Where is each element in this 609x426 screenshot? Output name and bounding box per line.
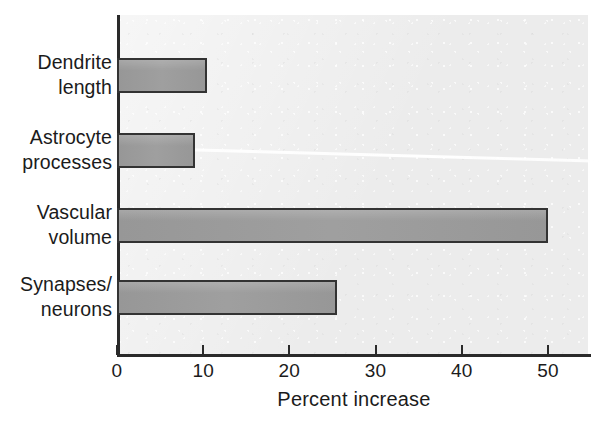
x-tick-label-40: 40 <box>451 359 473 383</box>
x-tick-10 <box>202 345 204 355</box>
bar-chart-figure: Dendrite length Astrocyte processes Vasc… <box>0 0 609 426</box>
bar-dendrite-length <box>117 58 207 93</box>
x-tick-40 <box>461 345 463 355</box>
x-tick-label-30: 30 <box>365 359 387 383</box>
x-axis-title: Percent increase <box>117 386 591 412</box>
x-axis-line <box>117 354 591 357</box>
bar-astrocyte-processes <box>117 133 195 168</box>
bar-synapses-neurons <box>117 280 337 315</box>
category-label-synapses-neurons: Synapses/ neurons <box>0 272 112 322</box>
x-tick-30 <box>375 345 377 355</box>
x-tick-20 <box>288 345 290 355</box>
category-label-vascular-volume: Vascular volume <box>0 200 112 250</box>
x-tick-label-0: 0 <box>112 359 123 383</box>
category-label-dendrite-length: Dendrite length <box>0 50 112 100</box>
x-tick-label-10: 10 <box>192 359 214 383</box>
x-tick-50 <box>547 345 549 355</box>
category-label-astrocyte-processes: Astrocyte processes <box>0 125 112 175</box>
x-tick-label-50: 50 <box>537 359 559 383</box>
bar-vascular-volume <box>117 208 548 243</box>
x-tick-0 <box>116 345 118 355</box>
x-tick-label-20: 20 <box>279 359 301 383</box>
